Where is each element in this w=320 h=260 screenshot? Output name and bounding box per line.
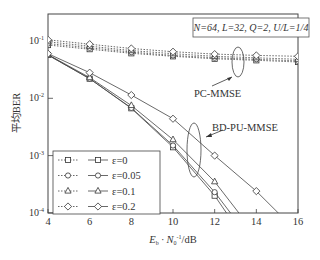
ber-chart: 4681012141610-110-210-310-4 N=64, L=32, … <box>0 0 320 260</box>
square-marker-icon <box>95 157 100 162</box>
x-tick-label: 14 <box>251 216 262 227</box>
triangle-marker-icon <box>170 136 176 142</box>
param-box-text: N=64, L=32, Q=2, U/L=1/4 <box>193 22 309 33</box>
circle-marker-icon <box>65 173 70 178</box>
y-tick-label: 10-1 <box>29 35 44 46</box>
bd-pu-mmse-label: BD-PU-MMSE <box>212 122 278 133</box>
pc-mmse-arrowhead <box>227 77 232 81</box>
diamond-marker-icon <box>294 53 301 60</box>
pc-mmse-label: PC-MMSE <box>194 88 241 99</box>
triangle-marker-icon <box>128 102 134 108</box>
pc-mmse-ellipse <box>232 47 244 77</box>
y-axis-label: 平均BER <box>11 93 22 133</box>
circle-marker-icon <box>212 190 217 195</box>
diamond-marker-icon <box>86 69 93 76</box>
x-tick-label: 16 <box>293 216 304 227</box>
x-tick-label: 8 <box>129 216 134 227</box>
bd-pu-mmse-arrowhead <box>206 133 212 137</box>
x-axis-label: Eb · N0-1/dB <box>148 234 196 246</box>
y-tick-label: 10-3 <box>29 150 44 161</box>
x-tick-label: 12 <box>209 216 220 227</box>
x-tick-label: 10 <box>168 216 179 227</box>
square-marker-icon <box>65 157 70 162</box>
circle-marker-icon <box>170 143 175 148</box>
legend: ε=0ε=0.05ε=0.1ε=0.2 <box>53 151 160 214</box>
legend-label: ε=0.1 <box>112 186 135 197</box>
circle-marker-icon <box>95 173 100 178</box>
annotations: N=64, L=32, Q=2, U/L=1/4 PC-MMSE BD-PU-M… <box>187 18 309 177</box>
diamond-marker-icon <box>128 91 135 98</box>
legend-label: ε=0.2 <box>112 201 135 212</box>
y-tick-label: 10-2 <box>29 92 44 103</box>
x-tick-label: 6 <box>87 216 92 227</box>
x-tick-label: 4 <box>45 216 51 227</box>
legend-label: ε=0 <box>112 155 128 166</box>
y-tick-label: 10-4 <box>29 207 44 218</box>
legend-label: ε=0.05 <box>112 170 141 181</box>
